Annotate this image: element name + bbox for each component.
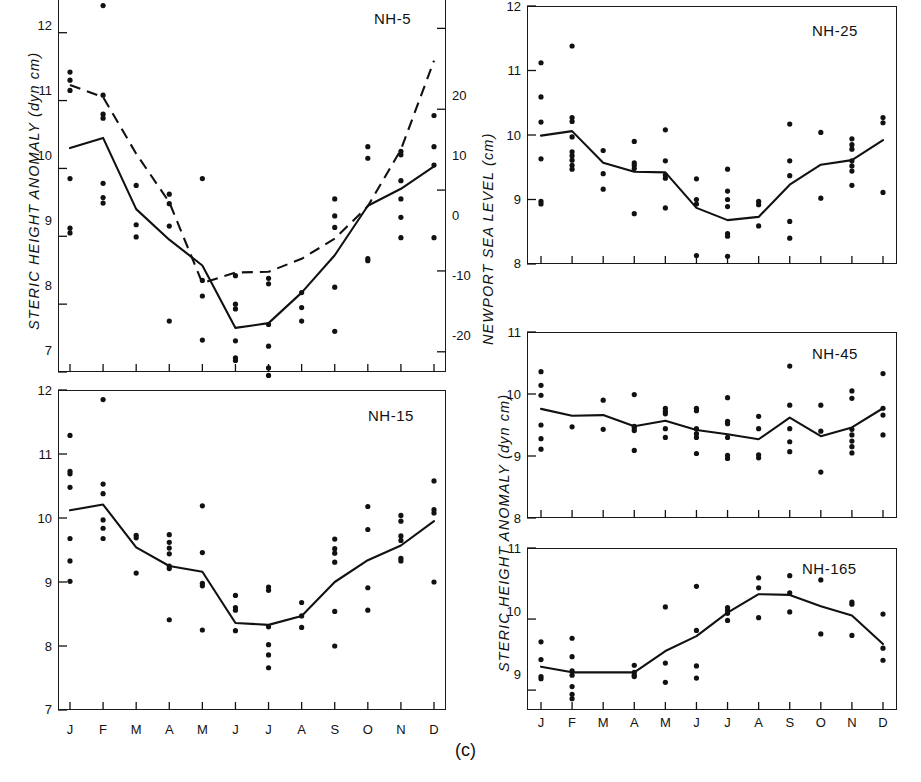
xtick-month-5: J bbox=[687, 715, 705, 730]
panel-nh-5: NH-5 12 11 10 9 8 7 20 10 0 -10 -20 bbox=[0, 0, 470, 378]
xtick-month-2: M bbox=[127, 722, 145, 737]
xtick-month-11: D bbox=[425, 722, 443, 737]
ytick-nh25-9: 9 bbox=[496, 192, 521, 207]
y2tick-nh5-0: 0 bbox=[452, 208, 459, 223]
xtick-month-8: S bbox=[326, 722, 344, 737]
xtick-month-9: O bbox=[812, 715, 830, 730]
xtick-month-11: D bbox=[874, 715, 892, 730]
xtick-month-4: M bbox=[656, 715, 674, 730]
y2tick-nh5-m10: -10 bbox=[452, 268, 471, 283]
panel-nh-165: NH-165 11 10 9 bbox=[470, 540, 921, 782]
ytick-nh15-8: 8 bbox=[28, 639, 52, 654]
ytick-nh45-11: 11 bbox=[496, 325, 521, 340]
xtick-month-0: J bbox=[61, 722, 79, 737]
y-axis-label-right-newport: NEWPORT SEA LEVEL (cm) bbox=[480, 133, 496, 345]
xtick-month-4: M bbox=[193, 722, 211, 737]
xtick-month-9: O bbox=[359, 722, 377, 737]
ytick-nh25-10: 10 bbox=[496, 128, 521, 143]
ytick-nh15-12: 12 bbox=[28, 383, 52, 398]
ytick-nh25-12: 12 bbox=[496, 0, 521, 14]
xtick-month-6: J bbox=[719, 715, 737, 730]
xtick-month-8: S bbox=[781, 715, 799, 730]
ytick-nh5-7: 7 bbox=[28, 343, 52, 358]
xtick-month-3: A bbox=[160, 722, 178, 737]
panel-nh-25: NH-25 12 11 10 9 8 bbox=[470, 0, 921, 270]
figure-caption: (c) bbox=[455, 740, 476, 761]
plot-area-nh-15 bbox=[58, 390, 446, 710]
xtick-month-1: F bbox=[94, 722, 112, 737]
ytick-nh25-11: 11 bbox=[496, 63, 521, 78]
ytick-nh15-10: 10 bbox=[28, 511, 52, 526]
xtick-month-10: N bbox=[392, 722, 410, 737]
xtick-month-1: F bbox=[563, 715, 581, 730]
xtick-month-10: N bbox=[843, 715, 861, 730]
y2tick-nh5-m20: -20 bbox=[452, 328, 471, 343]
xtick-month-6: J bbox=[260, 722, 278, 737]
panel-nh-15: NH-15 12 11 10 9 8 7 bbox=[0, 385, 470, 725]
y-axis-label-left-bottom: STERIC HEIGHT ANOMALY (dyn cm) bbox=[496, 394, 512, 672]
y2tick-nh5-20: 20 bbox=[452, 88, 466, 103]
xtick-month-0: J bbox=[532, 715, 550, 730]
plot-area-nh-25 bbox=[527, 6, 897, 264]
ytick-nh25-8: 8 bbox=[496, 256, 521, 271]
y-axis-label-left-top: STERIC HEIGHT ANOMALY (dyn cm) bbox=[26, 52, 42, 330]
plot-area-nh-45 bbox=[527, 332, 897, 518]
ytick-nh5-12: 12 bbox=[28, 18, 52, 33]
ytick-nh15-11: 11 bbox=[28, 447, 52, 462]
xtick-month-7: A bbox=[750, 715, 768, 730]
xtick-month-2: M bbox=[594, 715, 612, 730]
ytick-nh15-7: 7 bbox=[28, 702, 52, 717]
xtick-month-5: J bbox=[226, 722, 244, 737]
plot-area-nh-5 bbox=[58, 0, 446, 372]
ytick-nh15-9: 9 bbox=[28, 575, 52, 590]
xtick-month-3: A bbox=[625, 715, 643, 730]
xtick-month-7: A bbox=[293, 722, 311, 737]
plot-area-nh-165 bbox=[527, 548, 897, 710]
y2tick-nh5-10: 10 bbox=[452, 148, 466, 163]
panel-nh-45: NH-45 11 10 9 8 bbox=[470, 300, 921, 530]
